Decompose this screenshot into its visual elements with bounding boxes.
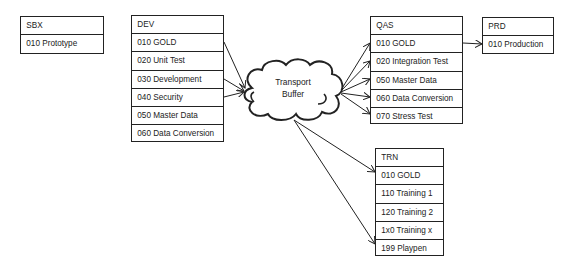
client-row: 050 Master Data (371, 72, 451, 89)
client-row: 020 Integration Test (371, 53, 451, 70)
system-box-sbx: SBX 010 Prototype (20, 16, 104, 54)
system-box-qas: QAS 010 GOLD 020 Integration Test 050 Ma… (370, 16, 463, 124)
client-row: 010 Production (483, 36, 545, 53)
client-row: 050 Master Data (132, 107, 212, 124)
buffer-label-line1: Transport (265, 76, 321, 88)
client-row: 199 Playpen (376, 240, 435, 257)
client-row: 020 Unit Test (132, 52, 212, 69)
client-row: 010 GOLD (371, 35, 451, 52)
client-row: 010 Prototype (21, 35, 93, 52)
transport-buffer-label: Transport Buffer (262, 76, 324, 100)
system-header-trn: TRN (376, 149, 435, 166)
client-row: 040 Security (132, 89, 212, 106)
client-row: 110 Training 1 (376, 185, 435, 202)
system-header-prd: PRD (483, 18, 545, 35)
client-row: 1x0 Training x (376, 222, 435, 239)
client-row: 060 Data Conversion (371, 90, 451, 107)
client-row: 030 Development (132, 71, 212, 88)
client-row: 010 GOLD (376, 167, 435, 184)
system-box-prd: PRD 010 Production (482, 17, 554, 54)
system-header-sbx: SBX (21, 17, 93, 34)
client-row: 070 Stress Test (371, 108, 451, 125)
system-box-dev: DEV 010 GOLD 020 Unit Test 030 Developme… (131, 15, 224, 142)
client-row: 060 Data Conversion (132, 125, 212, 142)
system-header-qas: QAS (371, 17, 451, 34)
system-box-trn: TRN 010 GOLD 110 Training 1 120 Training… (375, 148, 444, 256)
client-row: 120 Training 2 (376, 204, 435, 221)
client-row: 010 GOLD (132, 34, 212, 51)
system-header-dev: DEV (132, 16, 212, 33)
buffer-label-line2: Buffer (265, 88, 321, 100)
